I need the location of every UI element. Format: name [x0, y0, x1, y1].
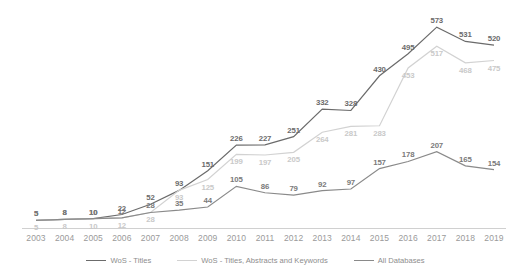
data-label-s0-2013: 332 [316, 98, 329, 107]
data-label-s0-2009: 151 [201, 159, 214, 168]
x-tick-2017: 2017 [422, 233, 452, 243]
data-label-s0-2016: 495 [402, 42, 415, 51]
data-label-s1-2015: 283 [373, 128, 386, 137]
data-label-s1-2014: 281 [345, 129, 358, 138]
data-label-s2-2017: 207 [430, 140, 443, 149]
x-tick-2018: 2018 [450, 233, 480, 243]
data-label-s2-2008: 35 [175, 199, 183, 208]
data-label-s0-2012: 251 [287, 125, 300, 134]
data-label-s0-2010: 226 [230, 134, 243, 143]
data-label-s0-2014: 328 [345, 99, 358, 108]
legend-swatch-wos-titles [86, 260, 106, 261]
data-label-s2-2018: 165 [459, 154, 472, 163]
data-label-s2-2007: 28 [146, 201, 154, 210]
data-label-s1-2018: 468 [459, 65, 472, 74]
data-label-s1-2019: 475 [488, 63, 501, 72]
data-label-s1-2010: 199 [230, 157, 243, 166]
x-tick-2008: 2008 [164, 233, 194, 243]
data-label-s0-2011: 227 [259, 133, 272, 142]
x-tick-2011: 2011 [250, 233, 280, 243]
legend-item-wos-titles-abstracts-keywords[interactable]: WoS - Titles, Abstracts and Keywords [177, 256, 327, 265]
data-label-s0-2017: 573 [430, 16, 443, 25]
x-tick-2016: 2016 [393, 233, 423, 243]
data-label-s1-2003: 5 [34, 223, 38, 232]
data-label-s0-2015: 430 [373, 64, 386, 73]
plot-area [0, 0, 511, 240]
x-tick-2004: 2004 [50, 233, 80, 243]
data-label-s1-2017: 517 [430, 49, 443, 58]
x-tick-2009: 2009 [193, 233, 223, 243]
data-label-s2-2006: 12 [118, 206, 126, 215]
legend-swatch-all-databases [354, 260, 374, 261]
chart-lines [0, 0, 511, 240]
legend-swatch-wos-titles-abstracts-keywords [177, 260, 197, 261]
legend-item-all-databases[interactable]: All Databases [354, 256, 425, 265]
legend-label-wos-titles: WoS - Titles [110, 256, 151, 265]
data-label-s1-2009: 125 [201, 182, 214, 191]
data-label-s2-2012: 79 [289, 184, 297, 193]
legend-label-wos-titles-abstracts-keywords: WoS - Titles, Abstracts and Keywords [201, 256, 327, 265]
data-label-s0-2008: 93 [175, 179, 183, 188]
x-tick-2019: 2019 [479, 233, 509, 243]
x-tick-2010: 2010 [221, 233, 251, 243]
data-label-s1-2005: 10 [89, 221, 97, 230]
data-label-s1-2016: 453 [402, 70, 415, 79]
series-line-0 [36, 27, 494, 220]
x-tick-2015: 2015 [365, 233, 395, 243]
x-tick-2007: 2007 [136, 233, 166, 243]
data-label-s2-2019: 154 [488, 158, 501, 167]
line-chart: 2003200420052006200720082009201020112012… [0, 0, 511, 275]
data-label-s2-2003: 5 [34, 209, 38, 218]
data-label-s1-2013: 264 [316, 135, 329, 144]
data-label-s1-2004: 8 [63, 222, 67, 231]
data-label-s2-2015: 157 [373, 157, 386, 166]
data-label-s1-2007: 28 [146, 215, 154, 224]
data-label-s2-2009: 44 [204, 196, 212, 205]
data-label-s1-2012: 205 [287, 155, 300, 164]
data-label-s2-2005: 10 [89, 207, 97, 216]
data-label-s2-2013: 92 [318, 179, 326, 188]
x-tick-2003: 2003 [21, 233, 51, 243]
data-label-s1-2011: 197 [259, 158, 272, 167]
data-label-s2-2010: 105 [230, 175, 243, 184]
data-label-s2-2004: 8 [63, 208, 67, 217]
data-label-s2-2014: 97 [347, 178, 355, 187]
legend-item-wos-titles[interactable]: WoS - Titles [86, 256, 151, 265]
x-tick-2005: 2005 [78, 233, 108, 243]
x-tick-2013: 2013 [307, 233, 337, 243]
legend-label-all-databases: All Databases [378, 256, 425, 265]
data-label-s1-2006: 12 [118, 220, 126, 229]
data-label-s2-2016: 178 [402, 150, 415, 159]
data-label-s0-2018: 531 [459, 30, 472, 39]
x-tick-2006: 2006 [107, 233, 137, 243]
data-label-s2-2011: 86 [261, 181, 269, 190]
chart-legend: WoS - Titles WoS - Titles, Abstracts and… [0, 256, 511, 265]
x-tick-2012: 2012 [279, 233, 309, 243]
x-tick-2014: 2014 [336, 233, 366, 243]
data-label-s0-2019: 520 [488, 34, 501, 43]
